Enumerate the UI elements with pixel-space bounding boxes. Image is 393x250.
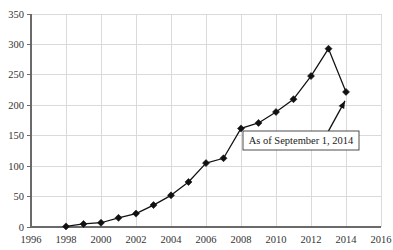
y-tick-label: 150 — [8, 130, 24, 141]
x-tick-label: 2008 — [231, 234, 252, 245]
x-tick-label: 1998 — [56, 234, 77, 245]
y-tick-label: 250 — [8, 69, 24, 80]
y-tick-label: 350 — [8, 9, 24, 20]
data-point-marker — [80, 220, 87, 227]
data-point-marker — [343, 88, 350, 95]
data-point-marker — [325, 45, 332, 52]
y-tick-label: 0 — [19, 222, 24, 233]
x-tick-label: 2012 — [301, 234, 322, 245]
data-point-marker — [63, 223, 70, 230]
x-axis-tick-labels: 1996199820002002200420062008201020122014… — [21, 234, 392, 245]
data-point-marker — [150, 202, 157, 209]
chart-container: 050100150200250300350 199619982000200220… — [0, 0, 393, 250]
y-tick-label: 300 — [8, 39, 24, 50]
data-point-marker — [220, 155, 227, 162]
x-tick-label: 2002 — [126, 234, 147, 245]
data-point-marker — [255, 119, 262, 126]
x-tick-label: 2010 — [266, 234, 287, 245]
y-tick-label: 50 — [14, 191, 25, 202]
annotation-callout: As of September 1, 2014 — [243, 131, 359, 150]
data-point-marker — [115, 214, 122, 221]
x-tick-label: 2016 — [371, 234, 392, 245]
data-point-marker — [98, 219, 105, 226]
x-tick-label: 2000 — [91, 234, 112, 245]
annotation-label: As of September 1, 2014 — [249, 135, 354, 146]
y-axis-tick-labels: 050100150200250300350 — [8, 9, 24, 233]
y-axis-ticks — [27, 14, 31, 227]
x-tick-label: 2004 — [161, 234, 183, 245]
x-tick-label: 1996 — [21, 234, 42, 245]
x-tick-label: 2006 — [196, 234, 217, 245]
line-chart: 050100150200250300350 199619982000200220… — [0, 0, 393, 250]
y-tick-label: 100 — [8, 161, 24, 172]
data-point-marker — [133, 210, 140, 217]
y-tick-label: 200 — [8, 100, 24, 111]
x-tick-label: 2014 — [336, 234, 358, 245]
